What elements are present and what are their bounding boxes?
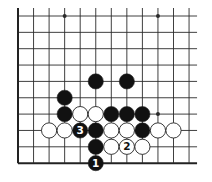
star-point-icon bbox=[156, 112, 160, 116]
black-stone bbox=[57, 90, 72, 105]
black-stone-icon bbox=[57, 107, 72, 122]
black-stone-icon bbox=[135, 123, 150, 138]
black-stone-icon bbox=[119, 74, 134, 89]
white-stone-icon bbox=[42, 123, 57, 138]
white-stone-move-2: 2 bbox=[119, 139, 134, 154]
white-stone-icon bbox=[57, 123, 72, 138]
move-number-label: 3 bbox=[77, 124, 84, 136]
black-stone-icon bbox=[104, 107, 119, 122]
white-stone-icon bbox=[150, 123, 165, 138]
white-stone-icon bbox=[119, 123, 134, 138]
white-stone-icon bbox=[166, 123, 181, 138]
black-stone bbox=[88, 123, 103, 138]
move-number-label: 2 bbox=[123, 140, 130, 152]
white-stone-icon bbox=[88, 107, 103, 122]
black-stone bbox=[135, 107, 150, 122]
white-stone bbox=[42, 123, 57, 138]
white-stone bbox=[166, 123, 181, 138]
black-stone bbox=[135, 123, 150, 138]
white-stone bbox=[135, 139, 150, 154]
black-stone-icon bbox=[119, 107, 134, 122]
black-stone-icon bbox=[57, 90, 72, 105]
white-stone bbox=[73, 107, 88, 122]
white-stone bbox=[57, 123, 72, 138]
white-stone-icon bbox=[73, 107, 88, 122]
white-stone bbox=[119, 123, 134, 138]
move-number-label: 1 bbox=[92, 157, 99, 169]
black-stone-move-1: 1 bbox=[88, 156, 103, 171]
go-board-diagram: 321 bbox=[0, 0, 212, 182]
black-stone-icon bbox=[88, 139, 103, 154]
white-stone bbox=[88, 107, 103, 122]
white-stone bbox=[150, 123, 165, 138]
white-stone-icon bbox=[104, 139, 119, 154]
black-stone bbox=[119, 107, 134, 122]
black-stone bbox=[57, 107, 72, 122]
white-stone-icon bbox=[104, 123, 119, 138]
star-point-icon bbox=[156, 14, 160, 18]
star-point-icon bbox=[63, 14, 67, 18]
black-stone bbox=[88, 74, 103, 89]
black-stone-icon bbox=[88, 123, 103, 138]
black-stone bbox=[119, 74, 134, 89]
black-stone-icon bbox=[135, 107, 150, 122]
black-stone-icon bbox=[88, 74, 103, 89]
white-stone bbox=[104, 139, 119, 154]
black-stone-move-3: 3 bbox=[73, 123, 88, 138]
black-stone bbox=[104, 107, 119, 122]
white-stone-icon bbox=[135, 139, 150, 154]
white-stone bbox=[104, 123, 119, 138]
black-stone bbox=[88, 139, 103, 154]
